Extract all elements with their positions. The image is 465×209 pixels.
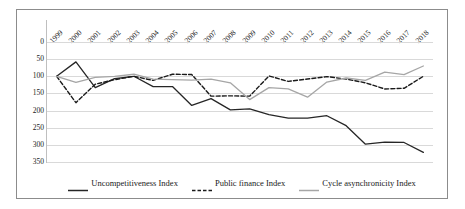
y-tick-label: 150 (16, 89, 44, 97)
legend-label: Uncompetitiveness Index (91, 178, 178, 188)
legend-label: Cycle asynchronicity Index (322, 178, 415, 188)
legend-item[interactable]: Public finance Index (192, 178, 285, 188)
legend-label: Public finance Index (215, 178, 285, 188)
legend-item[interactable]: Cycle asynchronicity Index (299, 178, 415, 188)
x-axis-tick-labels: 1999200020012002200320042005200620072008… (0, 0, 465, 45)
chart-legend: Uncompetitiveness IndexPublic finance In… (47, 176, 437, 190)
dashed-line-swatch (192, 180, 212, 187)
y-tick-label: 300 (16, 141, 44, 149)
y-tick-label: 200 (16, 107, 44, 115)
chart-container: 1999200020012002200320042005200620072008… (0, 0, 465, 209)
y-tick-label: 350 (16, 158, 44, 166)
y-axis-tick-labels: 050100150200250300350 (12, 0, 44, 209)
series-line (57, 62, 424, 153)
y-tick-label: 0 (16, 38, 44, 46)
gridline (47, 162, 433, 163)
y-tick-label: 50 (16, 55, 44, 63)
solid-line-swatch (68, 180, 88, 187)
series-lines (47, 42, 433, 162)
legend-item[interactable]: Uncompetitiveness Index (68, 178, 178, 188)
y-tick-label: 100 (16, 72, 44, 80)
y-tick-label: 250 (16, 124, 44, 132)
plot-area (47, 42, 433, 162)
gray-line-swatch (299, 180, 319, 187)
series-line (57, 66, 424, 100)
